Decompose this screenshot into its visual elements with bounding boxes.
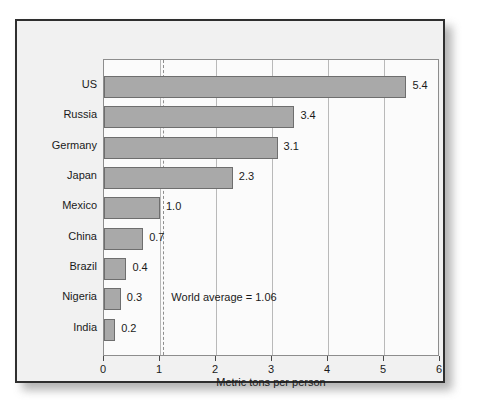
bar-row: 2.3 (104, 165, 438, 191)
bar[interactable] (104, 76, 406, 98)
bar[interactable] (104, 197, 160, 219)
bar-value-label: 3.4 (300, 108, 315, 122)
bar-value-label: 0.4 (132, 260, 147, 274)
category-label: Brazil (27, 259, 97, 273)
category-axis-labels: USRussiaGermanyJapanMexicoChinaBrazilNig… (25, 59, 97, 356)
chart-panel: 5.43.43.12.31.00.70.40.30.2 World averag… (15, 19, 445, 383)
category-label: Germany (27, 138, 97, 152)
category-label: US (27, 77, 97, 91)
category-label: Russia (27, 107, 97, 121)
bar-row: 0.7 (104, 226, 438, 252)
bar-value-label: 0.2 (121, 321, 136, 335)
x-axis-title: Metric tons per person (103, 376, 439, 388)
x-tick (215, 356, 216, 361)
bar-value-label: 0.7 (149, 230, 164, 244)
x-tick-label: 6 (427, 362, 451, 376)
category-label: India (27, 320, 97, 334)
category-label: China (27, 229, 97, 243)
bar-row: 0.2 (104, 317, 438, 343)
x-tick-label: 0 (91, 362, 115, 376)
x-tick-label: 2 (203, 362, 227, 376)
x-tick (327, 356, 328, 361)
bar[interactable] (104, 319, 115, 341)
x-tick-label: 5 (371, 362, 395, 376)
bar[interactable] (104, 288, 121, 310)
x-tick (159, 356, 160, 361)
bar-value-label: 2.3 (239, 169, 254, 183)
category-label: Mexico (27, 198, 97, 212)
figure: 5.43.43.12.31.00.70.40.30.2 World averag… (0, 0, 478, 406)
bar-value-label: 0.3 (127, 290, 142, 304)
x-tick (439, 356, 440, 361)
x-tick (383, 356, 384, 361)
bar-value-label: 3.1 (284, 139, 299, 153)
x-tick-label: 3 (259, 362, 283, 376)
bar[interactable] (104, 167, 233, 189)
bar-value-label: 1.0 (166, 199, 181, 213)
x-tick (271, 356, 272, 361)
bar[interactable] (104, 228, 143, 250)
bar[interactable] (104, 106, 294, 128)
x-tick (103, 356, 104, 361)
category-label: Nigeria (27, 289, 97, 303)
bar-row: 0.4 (104, 256, 438, 282)
bar-value-label: 5.4 (412, 78, 427, 92)
bar[interactable] (104, 258, 126, 280)
bar-row: 3.1 (104, 135, 438, 161)
category-label: Japan (27, 168, 97, 182)
bar-row: 5.4 (104, 74, 438, 100)
world-average-annotation: World average = 1.06 (171, 290, 276, 304)
x-tick-label: 1 (147, 362, 171, 376)
x-tick-label: 4 (315, 362, 339, 376)
bar-row: 1.0 (104, 195, 438, 221)
bar-row: 3.4 (104, 104, 438, 130)
bar[interactable] (104, 137, 278, 159)
plot-area: 5.43.43.12.31.00.70.40.30.2 World averag… (103, 59, 439, 356)
